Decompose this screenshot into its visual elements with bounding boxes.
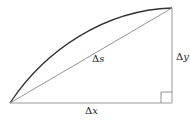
variable-y: y bbox=[183, 51, 189, 62]
right-angle-marker bbox=[161, 92, 172, 103]
variable-s: s bbox=[99, 53, 104, 64]
variable-x: x bbox=[92, 105, 98, 116]
label-delta-y: Δy bbox=[176, 52, 189, 62]
label-delta-s: Δs bbox=[92, 54, 104, 64]
label-delta-x: Δx bbox=[85, 106, 98, 116]
chord-line bbox=[10, 8, 172, 103]
